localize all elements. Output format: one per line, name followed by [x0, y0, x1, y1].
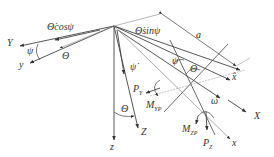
label-theta-dot-sin-psi: Θ̇sinψ: [135, 26, 160, 36]
label-M-ZP: MZP: [182, 124, 197, 136]
x-axis: [114, 26, 230, 139]
label-M-YP: MYP: [146, 100, 161, 112]
label-P-Y: PY: [133, 84, 142, 96]
label-psi-right: ψ: [172, 56, 178, 66]
X-axis: [228, 100, 246, 112]
label-X: X: [254, 111, 260, 121]
label-x: x: [232, 138, 236, 148]
label-theta-right: Θ: [190, 64, 197, 74]
label-psi-left: ψ: [27, 46, 33, 56]
label-omega: ω: [211, 96, 218, 106]
label-psi-dot: ψ̇: [130, 62, 136, 72]
label-Y: Y: [7, 38, 13, 48]
label-z: z: [110, 142, 114, 152]
label-theta-bottom: Θ: [121, 104, 128, 114]
label-P-Z: PZ: [203, 138, 212, 150]
label-x-hat: x̂: [232, 72, 236, 82]
label-theta-left: Θ: [62, 51, 69, 61]
diagram-canvas: Y y Θ̇cosψ Θ ψ Θ̇sinψ a ψ̇ ψ Θ x̂ ω X x …: [0, 0, 274, 157]
label-Z: Z: [141, 127, 147, 137]
label-theta-dot-cos-psi: Θ̇cosψ: [47, 22, 74, 32]
label-a: a: [196, 30, 201, 40]
label-y: y: [19, 60, 23, 70]
